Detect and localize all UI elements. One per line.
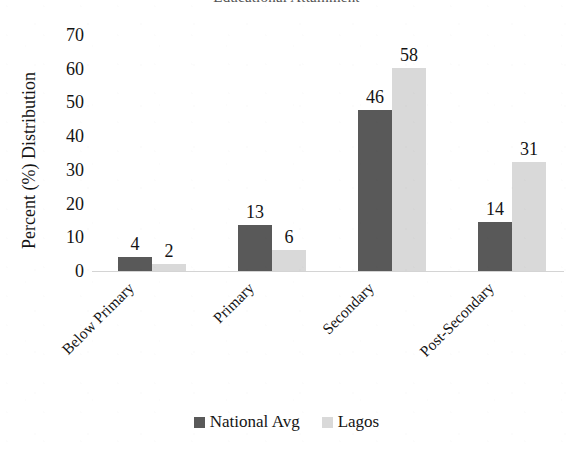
plot-area: 4213646581431 bbox=[92, 35, 564, 271]
x-axis-category-label: Below Primary bbox=[37, 279, 138, 380]
y-axis-tick-label: 10 bbox=[66, 228, 84, 246]
bar bbox=[272, 250, 306, 271]
x-axis-category-labels: Below PrimaryPrimarySecondaryPost-Second… bbox=[0, 271, 573, 391]
y-axis-tick-label: 40 bbox=[66, 127, 84, 145]
legend-swatch-icon bbox=[322, 417, 333, 428]
y-axis-title: Percent (%) Distribution bbox=[19, 46, 40, 276]
bar-group: 136 bbox=[238, 35, 306, 271]
y-axis-tick-label: 50 bbox=[66, 93, 84, 111]
bar-value-label: 13 bbox=[232, 203, 278, 221]
bar-value-label: 31 bbox=[506, 140, 552, 158]
bar bbox=[358, 110, 392, 271]
y-axis-tick-label: 20 bbox=[66, 195, 84, 213]
bar bbox=[512, 162, 546, 271]
bar-value-label: 58 bbox=[386, 46, 432, 64]
bar bbox=[152, 264, 186, 271]
bar bbox=[392, 68, 426, 271]
legend-item[interactable]: National Avg bbox=[194, 412, 300, 432]
bar bbox=[478, 222, 512, 271]
bar-value-label: 2 bbox=[146, 242, 192, 260]
bar-chart: Educational Attainment Percent (%) Distr… bbox=[0, 0, 573, 457]
bar-group: 42 bbox=[118, 35, 186, 271]
bar-group: 1431 bbox=[478, 35, 546, 271]
chart-legend: National AvgLagos bbox=[0, 412, 573, 432]
legend-label: Lagos bbox=[338, 412, 380, 432]
y-axis-tick-label: 60 bbox=[66, 60, 84, 78]
bar-value-label: 6 bbox=[266, 228, 312, 246]
bar-group: 4658 bbox=[358, 35, 426, 271]
y-axis-tick-label: 30 bbox=[66, 161, 84, 179]
chart-title: Educational Attainment bbox=[0, 0, 573, 6]
legend-label: National Avg bbox=[210, 412, 300, 432]
legend-item[interactable]: Lagos bbox=[322, 412, 380, 432]
y-axis-tick-label: 70 bbox=[66, 26, 84, 44]
legend-swatch-icon bbox=[194, 417, 205, 428]
